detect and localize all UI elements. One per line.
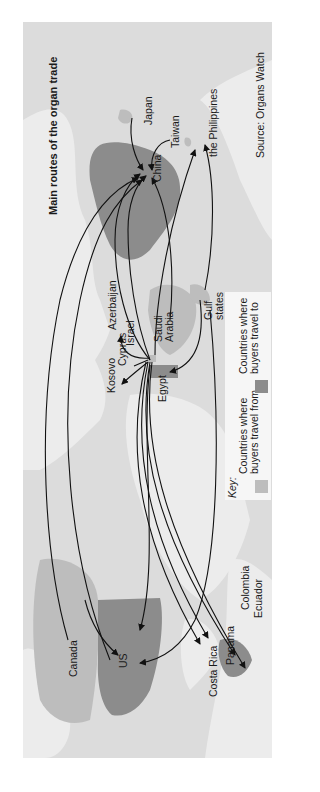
label-azerbaijan: Azerbaijan bbox=[107, 280, 118, 330]
label-kosovo: Kosovo bbox=[106, 358, 117, 393]
label-panama: Panama bbox=[225, 626, 236, 665]
label-egypt: Egypt bbox=[157, 375, 168, 402]
map-title: Main routes of the organ trade bbox=[48, 57, 60, 215]
map-legend: Key: Countries where buyers travel from … bbox=[225, 292, 271, 500]
legend-heading: Key: bbox=[227, 477, 238, 498]
label-japan: Japan bbox=[143, 96, 154, 125]
label-china: China bbox=[152, 155, 163, 182]
label-us: US bbox=[118, 653, 129, 668]
label-gulf-states: Gulf states bbox=[203, 292, 225, 320]
legend-swatch-to bbox=[255, 380, 268, 393]
label-ecuador: Ecuador bbox=[253, 579, 264, 618]
label-canada: Canada bbox=[68, 640, 79, 677]
legend-swatch-from bbox=[255, 480, 268, 493]
label-colombia: Colombia bbox=[240, 566, 251, 610]
label-taiwan: Taiwan bbox=[170, 115, 181, 148]
legend-label-to: Countries where buyers travel to bbox=[238, 298, 260, 374]
label-philippines: the Philippines bbox=[208, 89, 219, 157]
source-note: Source: Organs Watch bbox=[255, 52, 266, 158]
label-cyprus: Cyprus bbox=[117, 333, 128, 366]
label-costa-rica: Costa Rica bbox=[208, 646, 219, 697]
legend-label-from: Countries where buyers travel from bbox=[238, 390, 260, 474]
label-saudi-arabia: Saudi Arabia bbox=[153, 312, 175, 342]
